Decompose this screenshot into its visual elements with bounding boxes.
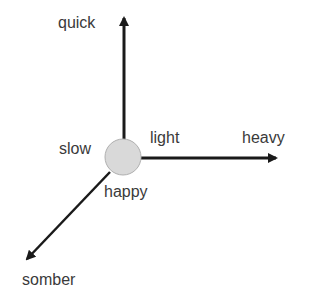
label-happy: happy [104, 184, 148, 200]
label-light: light [150, 130, 179, 146]
label-slow: slow [59, 141, 91, 157]
somber-axis-arrow [27, 172, 110, 259]
origin-circle [105, 139, 141, 175]
axes-diagram [0, 0, 319, 306]
label-quick: quick [58, 15, 95, 31]
label-heavy: heavy [242, 130, 285, 146]
label-somber: somber [22, 272, 75, 288]
